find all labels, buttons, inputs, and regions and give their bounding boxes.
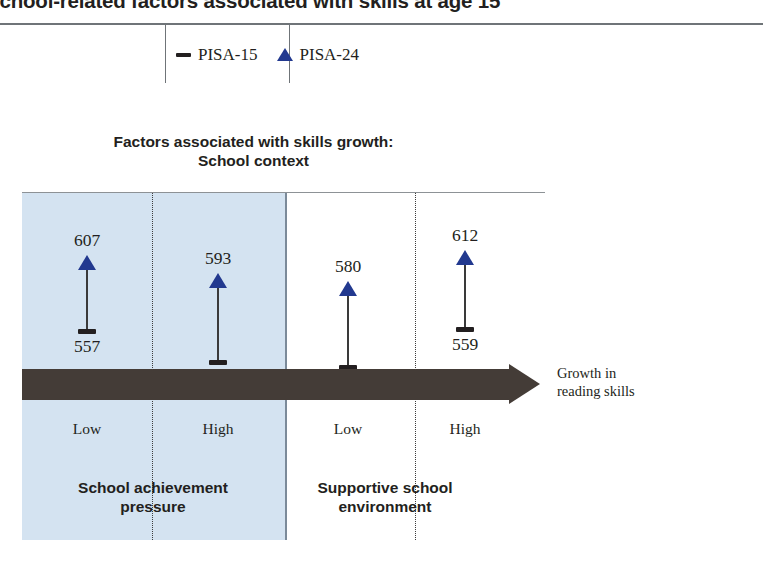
value-label-pisa24-g4: 612 (420, 225, 510, 246)
group-label-pressure: School achievement pressure (53, 478, 253, 516)
group-label-supportive-line2: environment (285, 497, 485, 516)
triangle-marker-g3 (339, 281, 357, 296)
dash-marker-g2 (209, 360, 227, 365)
connector-stem-g1 (86, 270, 88, 331)
triangle-marker-g1 (78, 255, 96, 270)
legend-item-pisa-24: PISA-24 (277, 45, 360, 65)
legend: PISA-15 PISA-24 (176, 45, 359, 65)
category-label-supportive-high: High (410, 420, 520, 438)
group-label-supportive: Supportive school environment (285, 478, 485, 516)
connector-stem-g2 (217, 288, 219, 362)
category-label-pressure-high: High (163, 420, 273, 438)
figure-title: School-related factors associated with s… (0, 0, 763, 13)
growth-arrow-head-icon (509, 364, 540, 404)
dash-marker-g1 (78, 329, 96, 334)
chart-subtitle-line2: School context (22, 151, 485, 170)
triangle-marker-g4 (456, 250, 474, 265)
growth-arrow-label-line2: reading skills (557, 383, 635, 401)
chart-subtitle-line1: Factors associated with skills growth: (22, 132, 485, 151)
connector-stem-g3 (347, 296, 349, 367)
chart-subtitle: Factors associated with skills growth: S… (22, 132, 485, 170)
value-label-pisa24-g1: 607 (42, 230, 132, 251)
legend-label-pisa-15: PISA-15 (198, 45, 258, 65)
legend-label-pisa-24: PISA-24 (300, 45, 360, 65)
growth-arrow-label: Growth in reading skills (557, 365, 635, 400)
value-label-pisa24-g3: 580 (303, 256, 393, 277)
group-label-supportive-line1: Supportive school (285, 478, 485, 497)
legend-top-rule (0, 23, 763, 25)
data-group-supportive-high: 612 559 (420, 225, 510, 375)
dash-marker-g4 (456, 327, 474, 332)
value-label-pisa24-g2: 593 (173, 248, 263, 269)
group-label-pressure-line2: pressure (53, 497, 253, 516)
group-label-pressure-line1: School achievement (53, 478, 253, 497)
data-group-pressure-low: 607 557 (42, 230, 132, 380)
connector-stem-g4 (464, 265, 466, 329)
legend-item-pisa-15: PISA-15 (176, 45, 258, 65)
triangle-marker-icon (277, 48, 293, 61)
category-label-pressure-low: Low (32, 420, 142, 438)
value-label-pisa15-g4: 559 (420, 334, 510, 355)
growth-arrow-label-line1: Growth in (557, 365, 635, 383)
growth-arrow-body (22, 369, 509, 400)
value-label-pisa15-g1: 557 (42, 336, 132, 357)
panel-top-rule (22, 192, 545, 193)
category-label-supportive-low: Low (293, 420, 403, 438)
growth-arrow (22, 369, 540, 400)
dash-marker-icon (176, 53, 191, 58)
triangle-marker-g2 (209, 273, 227, 288)
